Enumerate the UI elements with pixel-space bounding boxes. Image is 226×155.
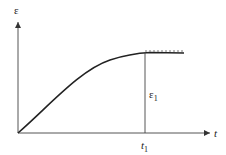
t1-label: t1 (141, 139, 148, 154)
x-axis-label: t (214, 127, 218, 139)
strain-curve (18, 53, 184, 134)
creep-curve-diagram: ε t ε1 t1 (0, 0, 226, 155)
y-axis-label: ε (14, 4, 19, 16)
epsilon1-label: ε1 (149, 88, 158, 103)
